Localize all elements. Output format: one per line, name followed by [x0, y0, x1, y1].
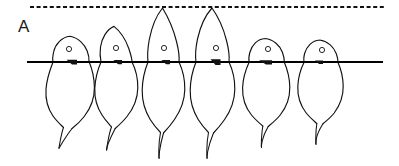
cell-1-nucleus [66, 46, 71, 51]
cell-4 [190, 8, 235, 158]
cell-4-outline [190, 8, 235, 133]
cell-1 [46, 36, 95, 148]
cell-3 [142, 8, 185, 158]
cell-3-nucleus [161, 45, 166, 50]
cell-5-nucleus [265, 46, 270, 51]
cell-5-outline [243, 39, 290, 127]
cell-3-outline [142, 8, 185, 133]
cell-4-nucleus [213, 45, 218, 50]
cell-5 [243, 39, 290, 148]
cell-6-tail-right [316, 124, 323, 144]
figure-panel-a: A [0, 0, 399, 166]
cell-6 [298, 40, 343, 144]
cell-2-outline [95, 26, 138, 128]
cell-1-outline [46, 36, 95, 128]
cell-6-nucleus [319, 47, 324, 52]
cell-2 [95, 26, 138, 150]
figure-drawing-canvas [0, 0, 399, 166]
cell-2-nucleus [113, 45, 118, 50]
